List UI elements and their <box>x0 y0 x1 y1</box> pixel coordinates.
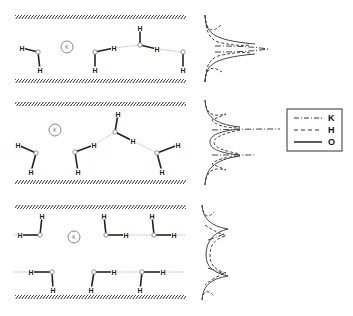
water-confinement-figure: HHHHHHHHHHHHHHHHHHHHHHHHHHH KKK K <box>0 0 353 316</box>
water-molecule: HH <box>19 45 43 74</box>
hydrogen-bond <box>133 141 157 153</box>
water-molecule: HH <box>113 111 136 145</box>
water-molecule: HH <box>28 269 56 294</box>
hydrogen-atom-label: H <box>154 46 159 53</box>
water-molecule: H <box>180 50 186 74</box>
water-molecule: HH <box>101 213 129 239</box>
oxygen-atom <box>152 233 156 237</box>
hydrogen-atom-label: H <box>91 142 96 149</box>
hydrogen-atom-label: H <box>123 232 128 239</box>
water-molecule: HH <box>73 142 97 176</box>
water-molecule: HH <box>137 269 166 294</box>
water-molecule: HH <box>17 213 45 239</box>
hydrogen-atom-label: H <box>171 232 176 239</box>
hydrogen-atom-label: H <box>137 287 142 294</box>
density-profile-panel-2 <box>205 100 280 185</box>
oxygen-atom <box>50 270 54 274</box>
water-molecule: HH <box>149 213 177 239</box>
bottom-wall-1 <box>15 79 186 83</box>
density-profile-panel-1 <box>205 15 268 82</box>
hydrogen-atom-label: H <box>19 45 24 52</box>
bottom-wall-3 <box>15 295 186 299</box>
density-profile-panel-3 <box>202 205 228 300</box>
oxygen-atom <box>36 50 40 54</box>
hydrogen-atom-label: H <box>28 269 33 276</box>
oxygen-atom <box>113 130 117 134</box>
hydrogen-atom-label: H <box>180 67 185 74</box>
hydrogen-atom-label: H <box>92 67 97 74</box>
hydrogen-atom-label: H <box>115 111 120 118</box>
hydrogen-bond <box>94 132 115 145</box>
hydrogen-atom-label: H <box>137 25 142 32</box>
water-molecule: HH <box>88 269 117 294</box>
hydrogen-atom-label: H <box>50 287 55 294</box>
hydrogen-atom-label: H <box>15 142 20 149</box>
oxygen-atom <box>92 270 96 274</box>
water-molecule: HH <box>137 25 160 53</box>
hydrogen-atom-label: H <box>39 213 44 220</box>
oxygen-atom <box>73 150 77 154</box>
hydrogen-atom-label: H <box>88 287 93 294</box>
hydrogen-atom-label: H <box>17 232 22 239</box>
walls <box>15 15 186 299</box>
legend-label-o: O <box>328 137 335 147</box>
legend-label-h: H <box>328 125 335 135</box>
water-molecule: HH <box>155 142 181 176</box>
hydrogen-atom-label: H <box>101 213 106 220</box>
hydrogen-atom-label: H <box>28 169 33 176</box>
water-molecule: HH <box>15 142 38 176</box>
hydrogen-atom-label: H <box>160 269 165 276</box>
top-wall-2 <box>15 102 186 106</box>
oxygen-atom <box>140 270 144 274</box>
water-molecules: HHHHHHHHHHHHHHHHHHHHHHHHHHH <box>15 25 186 294</box>
oxygen-atom <box>93 50 97 54</box>
top-wall-1 <box>15 15 186 19</box>
water-molecule: HH <box>92 45 117 74</box>
oxygen-atom <box>34 151 38 155</box>
hydrogen-bond <box>157 49 183 52</box>
hydrogen-atom-label: H <box>149 213 154 220</box>
hydrogen-atom-label: H <box>111 269 116 276</box>
oxygen-atom <box>138 43 142 47</box>
hydrogen-atom-label: H <box>111 45 116 52</box>
legend-label-k: K <box>328 113 335 123</box>
legend: K H O <box>287 109 342 151</box>
oxygen-atom <box>181 50 185 54</box>
top-wall-3 <box>15 205 186 209</box>
hydrogen-atom-label: H <box>130 138 135 145</box>
hydrogen-atom-label: H <box>175 142 180 149</box>
hydrogen-atom-label: H <box>159 169 164 176</box>
hydrogen-bond <box>114 45 140 48</box>
hydrogen-atom-label: H <box>75 169 80 176</box>
oxygen-atom <box>104 233 108 237</box>
oxygen-atom <box>38 233 42 237</box>
hydrogen-atom-label: H <box>37 67 42 74</box>
oxygen-atom <box>155 151 159 155</box>
potassium-ions: KKK <box>49 41 80 243</box>
bottom-wall-2 <box>15 180 186 184</box>
